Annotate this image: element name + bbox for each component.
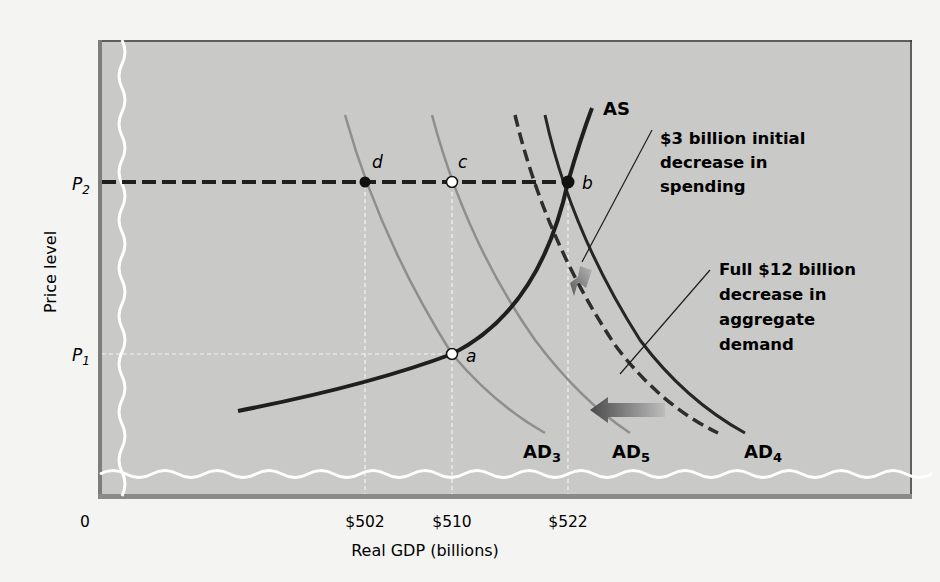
point-c-marker [447,177,458,188]
as-curve-label: AS [603,98,630,119]
y-axis-line [98,40,102,498]
x-axis-line [98,494,912,499]
x-tick-522: $522 [548,513,587,531]
y-axis-title: Price level [41,231,60,313]
full-annotation-line-2: decrease in [719,285,826,304]
full-annotation-line-1: Full $12 billion [719,260,856,279]
y-tick-p2: P2 [72,174,90,197]
full-annotation-line-4: demand [719,335,794,354]
chart-figure: d c b a AS AD3 AD5 AD4 $3 billion initia… [0,0,940,582]
x-tick-origin: 0 [80,513,90,531]
point-b-marker [562,176,575,189]
y-tick-p1: P1 [72,345,90,368]
point-d-marker [360,177,371,188]
full-annotation-line-3: aggregate [719,310,815,329]
point-a-label: a [466,346,476,366]
x-tick-510: $510 [432,513,471,531]
point-c-label: c [458,152,468,172]
point-a-marker [447,349,458,360]
x-tick-502: $502 [345,513,384,531]
initial-annotation-line-3: spending [660,177,746,196]
point-d-label: d [372,152,383,172]
initial-annotation-line-1: $3 billion initial [660,129,805,148]
x-axis-title: Real GDP (billions) [351,541,499,560]
point-b-label: b [582,173,593,193]
initial-annotation-line-2: decrease in [660,153,767,172]
